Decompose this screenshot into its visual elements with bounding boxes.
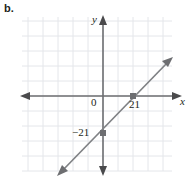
y-intercept-marker bbox=[100, 130, 106, 136]
y-axis-label: y bbox=[92, 14, 97, 25]
coordinate-plane bbox=[0, 0, 192, 183]
x-axis-label: x bbox=[180, 96, 185, 107]
grid-lines bbox=[22, 17, 172, 171]
origin-label: 0 bbox=[91, 97, 97, 108]
y-intercept-label: −21 bbox=[72, 127, 89, 138]
plotted-line bbox=[57, 57, 173, 176]
x-axis bbox=[20, 92, 182, 100]
x-intercept-label: 21 bbox=[129, 99, 140, 110]
graph-figure: b. bbox=[0, 0, 192, 183]
